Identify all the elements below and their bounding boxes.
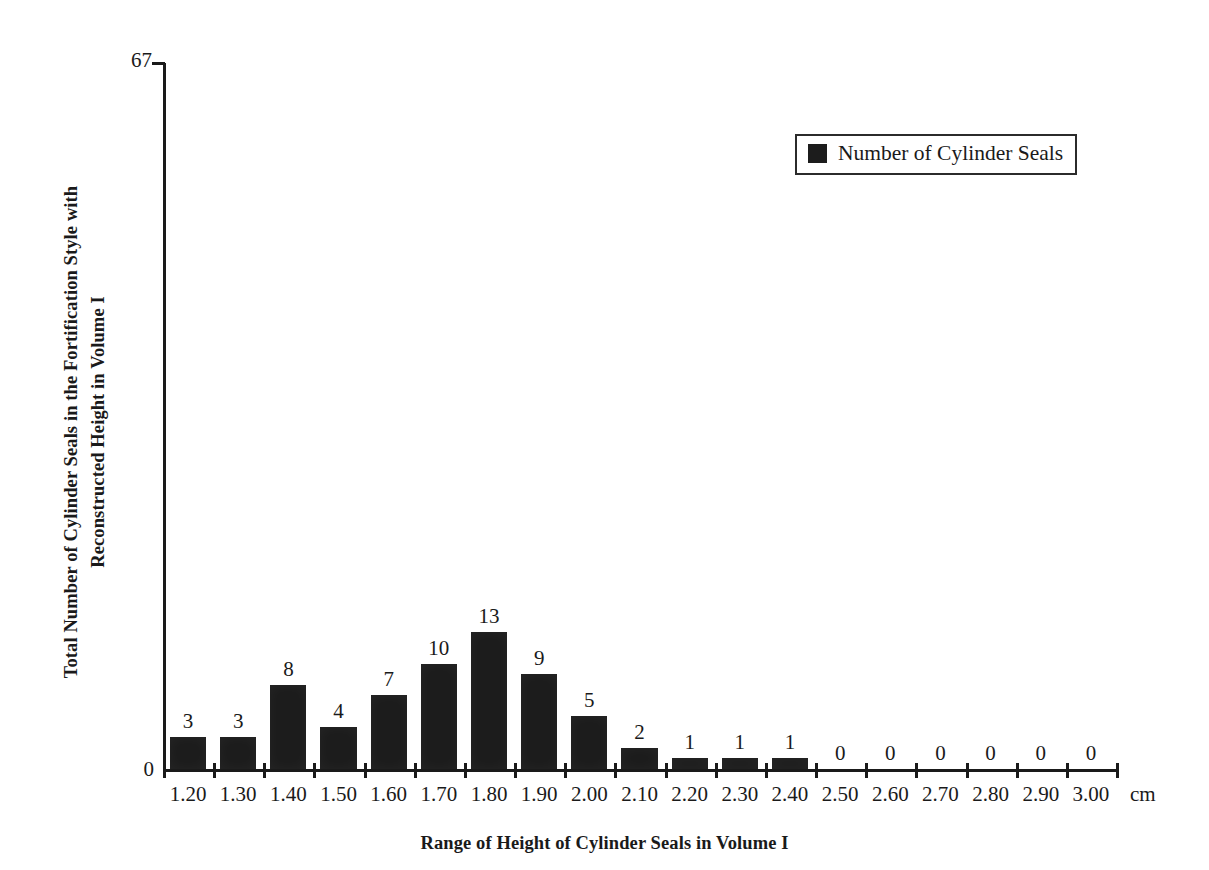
bar-value-label-2.40: 1 xyxy=(763,730,817,754)
x-tick-label-3.00: 3.00 xyxy=(1061,782,1121,807)
bar-1.30 xyxy=(220,737,256,769)
y-axis-title: Total Number of Cylinder Seals in the Fo… xyxy=(58,82,112,782)
y-axis-title-line-1: Total Number of Cylinder Seals in the Fo… xyxy=(58,82,85,782)
x-axis-tick xyxy=(514,763,517,778)
x-axis-title: Range of Height of Cylinder Seals in Vol… xyxy=(0,833,1209,854)
bar-value-label-1.20: 3 xyxy=(161,709,215,733)
bar-value-label-2.70: 0 xyxy=(913,741,967,765)
bar-value-label-1.30: 3 xyxy=(211,709,265,733)
x-axis-tick xyxy=(665,763,668,778)
x-axis-tick xyxy=(364,763,367,778)
legend-swatch-icon xyxy=(808,144,827,163)
bar-value-label-1.60: 7 xyxy=(362,667,416,691)
x-axis-tick xyxy=(313,763,316,778)
y-axis-zero-label: 0 xyxy=(124,757,154,781)
x-axis-tick xyxy=(865,763,868,778)
bar-value-label-1.40: 8 xyxy=(261,657,315,681)
x-axis-tick xyxy=(213,763,216,778)
bar-1.80 xyxy=(471,632,507,769)
x-axis-tick xyxy=(815,763,818,778)
bar-value-label-2.50: 0 xyxy=(813,741,867,765)
bar-value-label-2.90: 0 xyxy=(1014,741,1068,765)
x-axis-unit-label: cm xyxy=(1130,782,1156,807)
bar-1.20 xyxy=(170,737,206,769)
bar-1.70 xyxy=(421,664,457,769)
x-axis-tick xyxy=(263,763,266,778)
bar-1.50 xyxy=(320,727,356,769)
x-axis-tick xyxy=(614,763,617,778)
bar-1.90 xyxy=(521,674,557,769)
bar-2.20 xyxy=(672,758,708,769)
bar-value-label-2.00: 5 xyxy=(562,688,616,712)
bar-value-label-1.80: 13 xyxy=(462,604,516,628)
x-axis-tick xyxy=(1066,763,1069,778)
bar-2.10 xyxy=(621,748,657,769)
bar-value-label-1.50: 4 xyxy=(312,699,366,723)
x-axis-tick xyxy=(1116,763,1119,778)
bar-value-label-2.30: 1 xyxy=(713,730,767,754)
bar-value-label-2.10: 2 xyxy=(613,720,667,744)
bar-2.30 xyxy=(722,758,758,769)
bar-value-label-2.60: 0 xyxy=(863,741,917,765)
x-axis-tick xyxy=(915,763,918,778)
x-axis-tick xyxy=(1016,763,1019,778)
x-axis-tick xyxy=(564,763,567,778)
x-axis-tick xyxy=(414,763,417,778)
bar-2.40 xyxy=(772,758,808,769)
y-axis-top-tick xyxy=(152,62,165,65)
chart-legend: Number of Cylinder Seals xyxy=(795,134,1077,175)
x-axis-tick xyxy=(715,763,718,778)
x-axis-tick xyxy=(163,763,166,778)
bar-value-label-3.00: 0 xyxy=(1064,741,1118,765)
bar-2.00 xyxy=(571,716,607,769)
x-axis-tick xyxy=(464,763,467,778)
histogram-chart: 67 0 Total Number of Cylinder Seals in t… xyxy=(0,0,1209,870)
y-axis-max-label: 67 xyxy=(118,48,152,72)
y-axis-line xyxy=(163,63,166,771)
legend-entry-label: Number of Cylinder Seals xyxy=(838,141,1063,166)
x-axis-tick xyxy=(966,763,969,778)
bar-value-label-2.20: 1 xyxy=(663,730,717,754)
bar-value-label-1.70: 10 xyxy=(412,636,466,660)
bar-value-label-2.80: 0 xyxy=(964,741,1018,765)
bar-1.40 xyxy=(270,685,306,769)
bar-value-label-1.90: 9 xyxy=(512,646,566,670)
x-axis-line xyxy=(163,769,1116,772)
y-axis-title-line-2: Reconstructed Height in Volume I xyxy=(85,82,112,782)
x-axis-tick xyxy=(765,763,768,778)
bar-1.60 xyxy=(371,695,407,769)
